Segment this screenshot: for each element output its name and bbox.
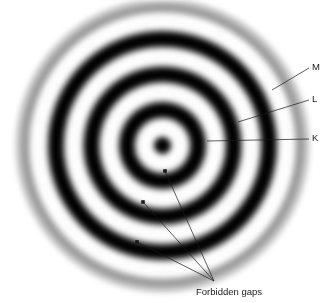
forbidden-gap-line-3 xyxy=(137,242,214,281)
forbidden-gap-marker-3 xyxy=(135,240,139,244)
forbidden-gap-leader-lines xyxy=(137,171,214,281)
forbidden-gaps-caption: Forbidden gaps xyxy=(196,286,262,297)
forbidden-gap-markers xyxy=(135,169,167,244)
diffraction-figure: M L K Forbidden gaps xyxy=(0,0,333,303)
leader-line-l xyxy=(238,100,309,122)
shell-label-l: L xyxy=(312,94,317,104)
forbidden-gap-marker-2 xyxy=(141,200,145,204)
forbidden-gap-line-2 xyxy=(143,202,214,281)
leader-line-m xyxy=(272,68,309,90)
leader-line-k xyxy=(207,139,309,141)
forbidden-gap-line-1 xyxy=(165,171,214,281)
shell-label-k: K xyxy=(312,133,318,143)
forbidden-gap-marker-1 xyxy=(163,169,167,173)
annotation-overlay xyxy=(0,0,333,303)
shell-label-m: M xyxy=(312,62,320,72)
shell-leader-lines xyxy=(207,68,309,141)
